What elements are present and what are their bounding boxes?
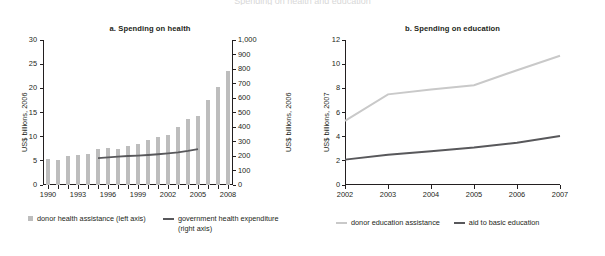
x-tick-2006 <box>517 185 518 189</box>
y-right-tick-label-800: 800 <box>238 65 250 72</box>
y-right-tick-400 <box>233 127 236 128</box>
y-tick-10 <box>342 64 345 65</box>
x-tick-1999 <box>138 185 139 189</box>
x-tick-1990 <box>48 185 49 189</box>
y-left-tick-20 <box>40 88 43 89</box>
x-tick-label-2008: 2008 <box>218 191 238 198</box>
x-tick-1995 <box>98 185 99 189</box>
y-right-tick-700 <box>233 83 236 84</box>
y-left-tick-5 <box>40 160 43 161</box>
x-tick-2001 <box>158 185 159 189</box>
x-tick-2002 <box>168 185 169 189</box>
legend-swatch-square <box>28 216 33 221</box>
y-right-tick-800 <box>233 69 236 70</box>
panel-a-y-left-label: US$ billions, 2006 <box>20 92 29 152</box>
y-left-tick-30 <box>40 40 43 41</box>
x-tick-2000 <box>148 185 149 189</box>
legend-swatch-line <box>163 218 174 220</box>
gov-health-path <box>98 149 198 158</box>
legend-item-donor-health-assistance: donor health assistance (left axis) <box>28 214 163 224</box>
y-right-tick-label-300: 300 <box>238 138 250 145</box>
legend-swatch-line-0 <box>336 222 347 224</box>
x-tick-label-2006: 2006 <box>506 191 528 198</box>
legend-label-b-1: aid to basic education <box>469 218 540 228</box>
y-tick-label-10: 10 <box>327 60 340 67</box>
x-tick-1994 <box>88 185 89 189</box>
x-tick-label-2005: 2005 <box>463 191 485 198</box>
y-tick-8 <box>342 88 345 89</box>
x-tick-1991 <box>58 185 59 189</box>
panel-b-legend: donor education assistanceaid to basic e… <box>336 218 601 228</box>
y-tick-label-2: 2 <box>327 157 340 164</box>
x-tick-2005 <box>198 185 199 189</box>
y-left-tick-25 <box>40 64 43 65</box>
x-tick-label-1990: 1990 <box>38 191 58 198</box>
legend-swatch-line-1 <box>454 222 465 224</box>
x-tick-1993 <box>78 185 79 189</box>
y-right-tick-0 <box>233 185 236 186</box>
y-right-tick-label-100: 100 <box>238 167 250 174</box>
panel-b-plot-area: 024681012200220032004200520062007 <box>345 40 560 185</box>
panel-a-y-right-label: US$ billions, 2006 <box>284 92 293 152</box>
y-right-tick-1,000 <box>233 40 236 41</box>
x-tick-label-2003: 2003 <box>377 191 399 198</box>
x-tick-2004 <box>188 185 189 189</box>
x-tick-2008 <box>228 185 229 189</box>
y-tick-4 <box>342 136 345 137</box>
x-tick-2002 <box>345 185 346 189</box>
y-tick-label-6: 6 <box>327 109 340 116</box>
y-right-tick-label-600: 600 <box>238 94 250 101</box>
legend-label-0: donor health assistance (left axis) <box>37 214 149 224</box>
panel-a-legend: donor health assistance (left axis)gover… <box>28 214 298 234</box>
x-tick-label-2002: 2002 <box>334 191 356 198</box>
y-left-tick-10 <box>40 136 43 137</box>
x-tick-2003 <box>178 185 179 189</box>
y-right-tick-500 <box>233 112 236 113</box>
panel-b-series-lines <box>345 40 560 185</box>
y-tick-2 <box>342 160 345 161</box>
panel-spending-on-education: b. Spending on education US$ billions, 2… <box>300 0 605 256</box>
panel-b-y-label: US$ billions, 2007 <box>322 92 331 152</box>
figure-spending-charts: Spending on health and education a. Spen… <box>0 0 605 256</box>
y-tick-label-0: 0 <box>327 181 340 188</box>
x-tick-2003 <box>388 185 389 189</box>
y-left-tick-label-0: 0 <box>33 181 37 188</box>
y-right-tick-900 <box>233 54 236 55</box>
y-tick-12 <box>342 40 345 41</box>
panel-a-plot-area: 0510152025300100200300400500600700800900… <box>43 40 233 185</box>
y-right-tick-label-500: 500 <box>238 109 250 116</box>
y-right-tick-300 <box>233 141 236 142</box>
y-right-tick-100 <box>233 170 236 171</box>
y-right-tick-label-0: 0 <box>238 181 242 188</box>
y-left-tick-label-30: 30 <box>29 36 37 43</box>
y-left-tick-label-10: 10 <box>29 133 37 140</box>
x-tick-label-2005: 2005 <box>188 191 208 198</box>
panel-a-gov-health-line <box>43 40 233 185</box>
x-tick-label-1993: 1993 <box>68 191 88 198</box>
legend-label-b-0: donor education assistance <box>351 218 440 228</box>
legend-item-donor-education-assistance: donor education assistance <box>336 218 440 228</box>
x-tick-label-2007: 2007 <box>549 191 571 198</box>
y-right-tick-label-200: 200 <box>238 152 250 159</box>
y-right-tick-600 <box>233 98 236 99</box>
x-tick-label-1996: 1996 <box>98 191 118 198</box>
x-tick-2005 <box>474 185 475 189</box>
x-tick-2006 <box>208 185 209 189</box>
x-tick-2007 <box>560 185 561 189</box>
x-tick-label-2002: 2002 <box>158 191 178 198</box>
y-left-tick-0 <box>40 185 43 186</box>
x-tick-1998 <box>128 185 129 189</box>
panel-b-title: b. Spending on education <box>300 24 605 33</box>
y-right-tick-label-700: 700 <box>238 80 250 87</box>
y-right-tick-200 <box>233 156 236 157</box>
y-tick-label-8: 8 <box>327 84 340 91</box>
x-tick-1996 <box>108 185 109 189</box>
y-left-tick-label-20: 20 <box>29 84 37 91</box>
y-tick-6 <box>342 112 345 113</box>
y-right-tick-label-400: 400 <box>238 123 250 130</box>
legend-a-rows: donor health assistance (left axis)gover… <box>28 214 298 234</box>
x-tick-1997 <box>118 185 119 189</box>
y-left-tick-15 <box>40 112 43 113</box>
aid-to-basic-education-path <box>345 136 560 160</box>
x-tick-1992 <box>68 185 69 189</box>
